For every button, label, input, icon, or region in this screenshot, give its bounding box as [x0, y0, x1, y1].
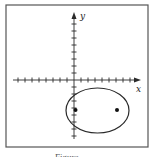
figure-caption: Figure	[55, 152, 79, 157]
focus-point-left	[74, 108, 78, 112]
x-axis-arrow-icon	[134, 78, 141, 83]
y-axis-arrow-icon	[72, 12, 77, 19]
figure-frame	[6, 5, 148, 147]
focus-point-right	[115, 108, 119, 112]
y-axis	[72, 16, 77, 139]
x-axis-label: x	[136, 84, 141, 94]
x-axis	[13, 78, 138, 83]
ellipse-figure: x y Figure	[0, 0, 158, 157]
y-axis-label: y	[79, 11, 86, 21]
